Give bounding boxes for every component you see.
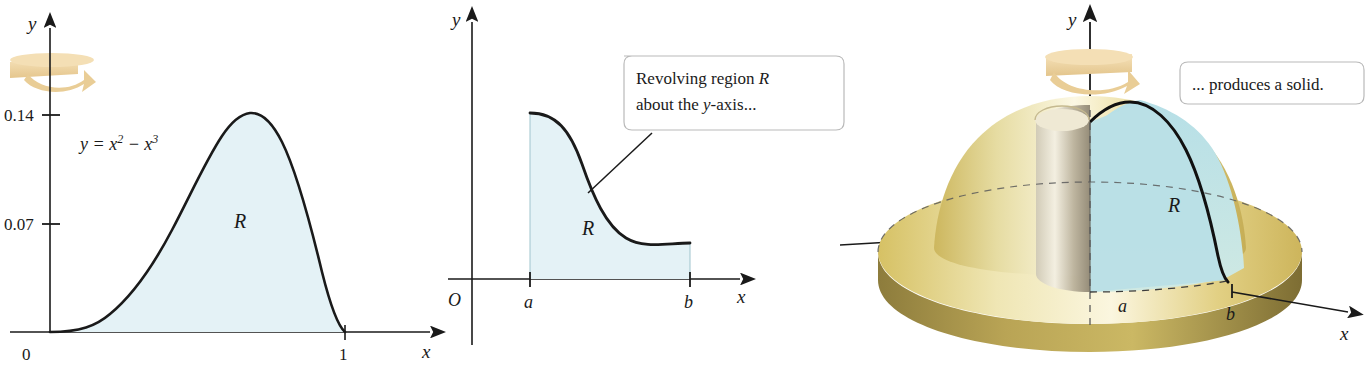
- x-tick-label-a: a: [1118, 296, 1127, 316]
- panel-solid-of-revolution: y: [840, 0, 1365, 372]
- region-label: R: [581, 217, 594, 239]
- inner-hole-top: [1035, 109, 1089, 131]
- y-tick-label-014: 0.14: [4, 106, 34, 125]
- x-tick-label-a: a: [524, 292, 533, 312]
- panel-region-plot: y x 0.14 0.07 1 0 y = x2 − x3: [0, 0, 460, 372]
- region-label: R: [233, 210, 246, 232]
- svg-text:y = x2 − x3: y = x2 − x3: [78, 132, 158, 154]
- callout-line-2: about the y-axis...: [636, 95, 756, 114]
- region-fill: [530, 113, 690, 279]
- x-axis-label: x: [1339, 323, 1349, 344]
- y-axis-label: y: [450, 9, 461, 30]
- curve-equation-label: y = x2 − x3: [78, 132, 158, 154]
- callout-produces-solid: ... produces a solid.: [1180, 62, 1364, 104]
- rotation-arrow-icon: [1045, 49, 1140, 95]
- origin-label: O: [448, 290, 461, 310]
- callout-line-1: Revolving region R: [636, 69, 770, 88]
- callout-revolving-region: Revolving region R about the y-axis...: [624, 56, 844, 130]
- x-tick-label-b: b: [1226, 304, 1235, 324]
- y-axis-label: y: [1066, 9, 1077, 30]
- y-axis-label: y: [26, 13, 37, 34]
- y-tick-label-007: 0.07: [4, 215, 34, 234]
- region-label: R: [1167, 194, 1180, 216]
- x-axis-label: x: [736, 286, 746, 307]
- origin-label: 0: [22, 345, 31, 364]
- x-axis-label: x: [421, 341, 431, 362]
- rotation-arrow-icon: [10, 53, 96, 92]
- inner-cylinder-wall: [1036, 105, 1090, 292]
- x-tick-label-b: b: [684, 292, 693, 312]
- callout-text: ... produces a solid.: [1192, 75, 1324, 94]
- x-tick-label-1: 1: [339, 345, 348, 364]
- callout-leader-line: [588, 133, 652, 193]
- figure-solid-of-revolution: y x 0.14 0.07 1 0 y = x2 − x3: [0, 0, 1365, 372]
- panel-generic-region: y x a b O R: [440, 0, 850, 372]
